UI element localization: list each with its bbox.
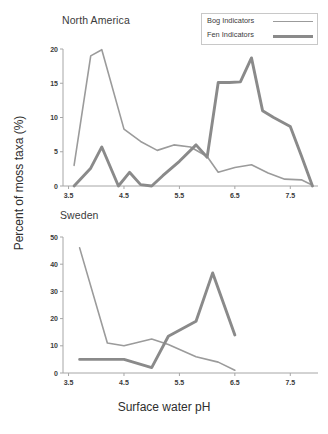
- svg-text:5.5: 5.5: [175, 379, 185, 386]
- chart-panel-sweden: Sweden 010203040503.54.55.56.57.5: [0, 205, 328, 390]
- figure-container: North America 051015203.54.55.56.57.5 Sw…: [0, 0, 328, 434]
- legend-swatch-bog-icon: [273, 21, 313, 22]
- series-line-fen: [80, 273, 235, 368]
- legend-label-bog: Bog Indicators: [207, 16, 254, 25]
- x-axis-label: Surface water pH: [0, 400, 328, 414]
- series-line-bog: [80, 248, 235, 370]
- y-axis-label: Percent of moss taxa (%): [12, 103, 26, 263]
- svg-text:4.5: 4.5: [119, 379, 129, 386]
- svg-text:6.5: 6.5: [230, 379, 240, 386]
- legend-item-bog: Bog Indicators: [207, 15, 315, 29]
- svg-text:3.5: 3.5: [64, 192, 74, 199]
- svg-text:7.5: 7.5: [285, 379, 295, 386]
- svg-text:4.5: 4.5: [119, 192, 129, 199]
- svg-text:0: 0: [54, 370, 58, 377]
- svg-text:10: 10: [50, 342, 58, 349]
- legend-swatch-fen-icon: [273, 35, 313, 38]
- svg-text:40: 40: [50, 261, 58, 268]
- svg-text:3.5: 3.5: [64, 379, 74, 386]
- legend-item-fen: Fen Indicators: [207, 29, 315, 43]
- svg-text:0: 0: [54, 183, 58, 190]
- legend: Bog Indicators Fen Indicators: [201, 13, 318, 45]
- svg-text:20: 20: [50, 315, 58, 322]
- svg-text:10: 10: [50, 114, 58, 121]
- svg-text:20: 20: [50, 46, 58, 53]
- svg-text:5: 5: [54, 148, 58, 155]
- svg-text:5.5: 5.5: [175, 192, 185, 199]
- chart-svg-sweden: 010203040503.54.55.56.57.5: [0, 205, 328, 390]
- svg-text:7.5: 7.5: [285, 192, 295, 199]
- chart-title-north-america: North America: [62, 14, 130, 26]
- chart-title-sweden: Sweden: [60, 209, 99, 221]
- svg-text:50: 50: [50, 234, 58, 241]
- svg-text:6.5: 6.5: [230, 192, 240, 199]
- svg-text:15: 15: [50, 80, 58, 87]
- legend-label-fen: Fen Indicators: [207, 30, 254, 39]
- svg-text:30: 30: [50, 288, 58, 295]
